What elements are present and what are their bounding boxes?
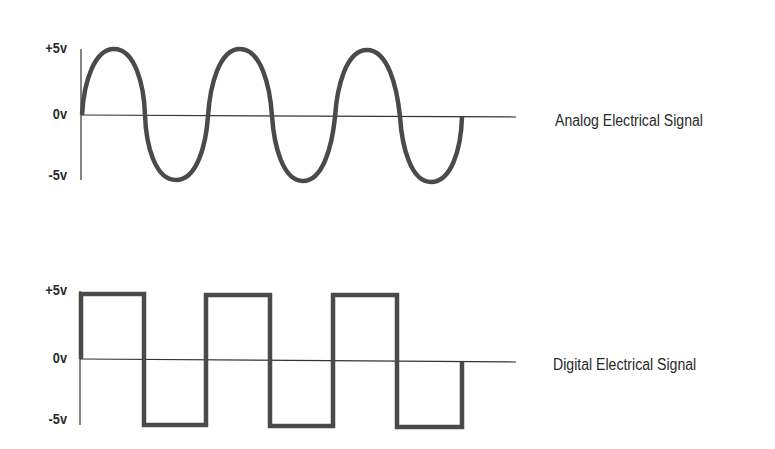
analog-label-minus5v: -5v (16, 166, 67, 183)
digital-label-plus5v: +5v (16, 281, 67, 298)
signal-diagram (0, 0, 775, 449)
analog-signal-title: Analog Electrical Signal (555, 112, 703, 130)
digital-square-wave (81, 294, 462, 427)
analog-label-0v: 0v (16, 105, 67, 122)
digital-label-minus5v: -5v (16, 410, 67, 427)
analog-label-plus5v: +5v (16, 39, 67, 56)
digital-label-0v: 0v (16, 349, 67, 366)
digital-signal-title: Digital Electrical Signal (553, 356, 696, 374)
